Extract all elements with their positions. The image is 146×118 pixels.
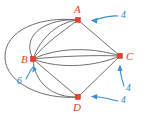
vertex-node-d [75,94,80,99]
degree-label-d: 4 [121,95,126,105]
edge-b-c-middle [33,56,120,59]
vertex-node-b [30,56,35,61]
vertex-label-c: C [126,50,134,62]
degree-label-b: 6 [17,76,22,86]
vertex-node-c [117,53,122,58]
degree-arrowhead-a [91,18,98,24]
vertex-node-a [75,17,80,22]
vertex-label-a: A [73,3,81,15]
vertex-label-d: D [72,101,81,113]
edge-a-b-lower [33,20,78,59]
graph-figure: A B C D 4 6 4 4 [0,0,146,118]
edge-a-c [78,20,120,56]
degree-label-a: 4 [121,10,126,20]
vertex-label-b: B [21,53,28,65]
degree-arrowhead-c [117,65,122,71]
graph-canvas: A B C D 4 6 4 4 [0,0,146,118]
degree-label-c: 4 [126,83,131,93]
edge-a-b-upper [33,20,78,59]
degree-arrowhead-d [91,94,97,100]
degree-arrow-b [26,67,33,79]
vertex-group [30,17,122,99]
